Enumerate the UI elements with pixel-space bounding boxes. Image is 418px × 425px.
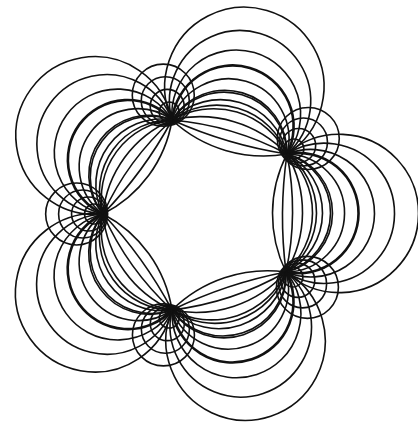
outer-arc: [37, 75, 172, 214]
inner-arc: [101, 214, 172, 310]
rosette-canvas: [0, 0, 418, 425]
outer-arc: [37, 214, 172, 354]
inner-arc: [103, 214, 172, 310]
inner-arc: [172, 120, 287, 154]
inner-arc: [172, 272, 286, 310]
arc-family-3: [166, 271, 325, 421]
inner-arc: [172, 272, 286, 310]
arc-families: [15, 7, 418, 420]
arc-family-1: [165, 7, 324, 156]
arc-family-5: [16, 57, 172, 215]
outer-arc: [15, 214, 172, 372]
arc-family-2: [272, 134, 418, 292]
outer-arc: [16, 57, 172, 215]
inner-arc: [103, 214, 172, 310]
inner-arc: [103, 120, 172, 214]
inner-arc: [103, 120, 172, 214]
inner-arc: [103, 214, 172, 310]
inner-arc: [103, 214, 172, 310]
outer-arc: [68, 214, 172, 329]
inner-arc: [172, 120, 287, 154]
inner-arc: [103, 120, 172, 214]
rosette-drawing: [0, 0, 418, 425]
inner-arc: [282, 154, 287, 272]
inner-arc: [103, 120, 172, 214]
arc-family-4: [15, 214, 172, 372]
inner-arc: [286, 154, 293, 272]
inner-arc: [172, 271, 286, 310]
inner-arc: [101, 120, 172, 214]
